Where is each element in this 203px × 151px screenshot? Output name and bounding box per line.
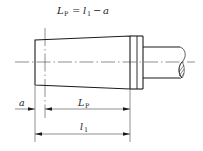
formula-minus: − (93, 5, 101, 16)
dimension-a-label: a (19, 97, 25, 108)
formula-term2-symbol: a (103, 5, 109, 16)
dimension-lp-subscript: P (85, 102, 90, 110)
formula-term1-symbol: l (83, 5, 86, 16)
formula-equals: = (72, 5, 80, 16)
dimension-lp: L P (45, 97, 130, 111)
dimension-a: a (15, 97, 35, 111)
dimension-l1: l 1 (35, 121, 130, 136)
collar (130, 36, 143, 89)
tapered-shank (35, 36, 130, 89)
shaft (143, 47, 185, 79)
break-hatch (179, 65, 184, 79)
formula-title: L P = l 1 − a (56, 5, 109, 18)
dimension-lp-symbol: L (77, 97, 84, 108)
dimension-l1-subscript: 1 (84, 126, 88, 134)
formula-lhs-subscript: P (64, 10, 69, 18)
diagram-canvas: L P = l 1 − a (0, 0, 203, 151)
dimension-l1-symbol: l (80, 121, 83, 132)
formula-term1-subscript: 1 (87, 10, 91, 18)
formula-lhs-symbol: L (56, 5, 64, 16)
